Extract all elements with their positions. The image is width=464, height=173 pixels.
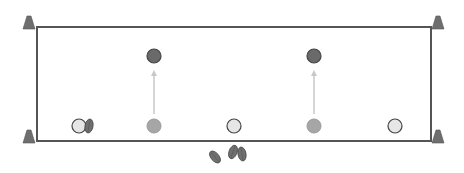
player-grey-icon bbox=[307, 119, 321, 133]
cone-bottom-right-icon bbox=[432, 130, 444, 143]
cone-bottom-left-icon bbox=[23, 130, 35, 143]
drill-diagram bbox=[0, 0, 464, 173]
arrow-head-icon bbox=[151, 70, 157, 76]
player-white-icon bbox=[72, 119, 86, 133]
movement-arrows bbox=[151, 70, 317, 114]
player-dark-icon bbox=[147, 49, 161, 63]
player-grey-icon bbox=[147, 119, 161, 133]
player-dark-icon bbox=[307, 49, 321, 63]
ball-icon bbox=[84, 118, 94, 133]
player-white-icon bbox=[227, 119, 241, 133]
ball-icon bbox=[227, 144, 239, 160]
ball-icon bbox=[237, 146, 247, 161]
arrow-head-icon bbox=[311, 70, 317, 76]
ball-icon bbox=[207, 149, 222, 165]
players bbox=[72, 49, 402, 133]
cone-top-left-icon bbox=[23, 16, 35, 29]
cone-top-right-icon bbox=[432, 16, 444, 29]
player-white-icon bbox=[388, 119, 402, 133]
